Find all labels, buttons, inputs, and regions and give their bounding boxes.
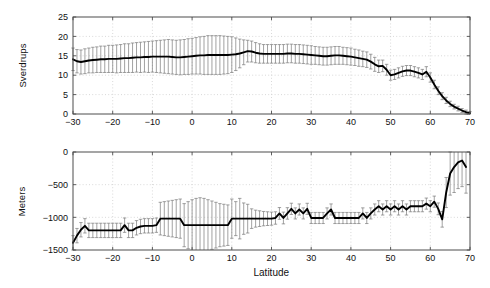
panel-depth: −1500−1000−5000−30−20−10010203040506070 … [0, 140, 490, 288]
x-tick-label-latitude: −10 [145, 117, 160, 127]
x-tick-label-latitude: −20 [105, 253, 120, 263]
x-tick-label-latitude: 30 [306, 253, 316, 263]
y-tick-label-sverdrups: 20 [58, 32, 68, 42]
x-tick-label-latitude: 40 [346, 253, 356, 263]
x-tick-label-latitude: 0 [190, 253, 195, 263]
x-tick-label-latitude: 70 [465, 253, 475, 263]
y-tick-label-sverdrups: 5 [63, 90, 68, 100]
x-tick-label-latitude: 70 [465, 117, 475, 127]
x-tick-label-latitude: 30 [306, 117, 316, 127]
y-axis-label-meters: Meters [16, 186, 27, 216]
panel-transport: 0510152025−30−20−10010203040506070 Sverd… [0, 0, 490, 140]
y-tick-label-meters: −1000 [43, 213, 68, 223]
transport-plot-svg: 0510152025−30−20−10010203040506070 [0, 0, 490, 140]
x-tick-label-latitude: −30 [65, 253, 80, 263]
x-tick-label-latitude: 0 [190, 117, 195, 127]
y-tick-label-meters: −500 [48, 180, 68, 190]
x-tick-label-latitude: −30 [65, 117, 80, 127]
x-axis-label-latitude: Latitude [254, 267, 290, 278]
depth-plot-svg: −1500−1000−5000−30−20−10010203040506070 [0, 140, 490, 288]
y-tick-label-meters: −1500 [43, 245, 68, 255]
x-tick-label-latitude: 60 [425, 117, 435, 127]
x-tick-label-latitude: 60 [425, 253, 435, 263]
y-tick-label-sverdrups: 10 [58, 70, 68, 80]
x-tick-label-latitude: 50 [386, 117, 396, 127]
y-tick-label-meters: 0 [63, 147, 68, 157]
y-tick-label-sverdrups: 25 [58, 12, 68, 22]
figure-container: 0510152025−30−20−10010203040506070 Sverd… [0, 0, 490, 288]
x-tick-label-latitude: 20 [266, 117, 276, 127]
y-tick-label-sverdrups: 15 [58, 51, 68, 61]
x-tick-label-latitude: −10 [145, 253, 160, 263]
x-tick-label-latitude: 10 [227, 117, 237, 127]
x-tick-label-latitude: 50 [386, 253, 396, 263]
y-axis-label-sverdrups: Sverdrups [17, 43, 28, 87]
x-tick-label-latitude: 10 [227, 253, 237, 263]
x-tick-label-latitude: 40 [346, 117, 356, 127]
x-tick-label-latitude: 20 [266, 253, 276, 263]
x-tick-label-latitude: −20 [105, 117, 120, 127]
